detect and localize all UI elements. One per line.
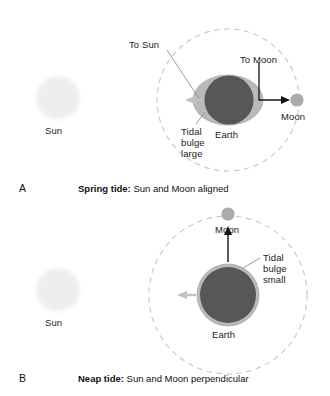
earth-disc-b [200,267,256,323]
panel-spring-tide: Sun To Sun To Moon Earth Moon Tidal bulg… [0,0,330,198]
earth-label-a: Earth [215,129,238,141]
to-sun-label: To Sun [129,39,159,51]
neap-tide-diagram [0,198,330,396]
caption-b: Neap tide: Sun and Moon perpendicular [78,373,249,385]
caption-a-bold: Spring tide: [78,183,131,194]
to-moon-arrow-shaft [259,62,284,100]
panel-letter-b: B [19,372,26,384]
moon-label-b: Moon [215,224,239,236]
tidal-bulge-leader-line-b [243,258,260,268]
tidal-bulge-label-b-line3: small [263,274,286,286]
tidal-bulge-label-b-line2: bulge [263,263,287,275]
to-moon-arrowhead [281,96,290,104]
panel-letter-a: A [19,182,26,194]
tidal-bulge-label-a-line1: Tidal [181,126,202,138]
to-moon-label: To Moon [240,54,277,66]
caption-b-bold: Neap tide: [78,373,124,384]
moon-disc-b [221,207,234,220]
to-sun-arrowhead [185,96,196,105]
caption-a: Spring tide: Sun and Moon aligned [78,183,229,195]
tidal-bulge-label-a-line3: large [181,148,203,160]
moon-disc-a [290,93,303,106]
earth-disc-a [205,76,254,125]
moon-label-a: Moon [281,111,305,123]
earth-label-b: Earth [212,329,235,341]
to-sun-arrowhead-b [177,291,187,299]
to-sun-leader-line [167,50,200,100]
caption-b-rest: Sun and Moon perpendicular [127,373,249,384]
tidal-bulge-label-b-line1: Tidal [263,252,284,264]
caption-a-rest: Sun and Moon aligned [133,183,228,194]
panel-neap-tide: Sun Moon Earth Tidal bulge small B Neap … [0,198,330,396]
spring-tide-diagram [0,0,330,198]
tidal-bulge-label-a-line2: bulge [181,137,205,149]
